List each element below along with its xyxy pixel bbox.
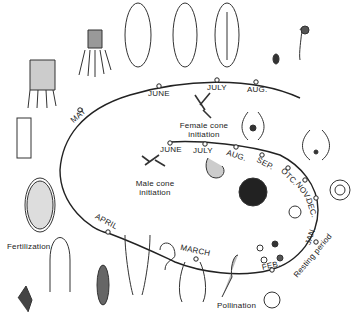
- month-label-june-inner: JUNE: [160, 146, 182, 154]
- month-label-aug-outer: AUG.: [247, 86, 267, 94]
- ovule-sketch-2: [173, 3, 197, 67]
- female-cone-line1: Female cone: [176, 122, 232, 130]
- female-cone-line2: initiation: [176, 131, 232, 139]
- month-label-july-outer: JULY: [207, 84, 227, 92]
- pollination-label: Pollination: [217, 302, 256, 310]
- cycle-drawing: [0, 0, 360, 321]
- month-label-june-outer: JUNE: [148, 90, 170, 98]
- ovule-sketch-1: [125, 3, 151, 67]
- female-cone-initiation-label: Female cone initiation: [176, 122, 232, 139]
- male-cone-line2: initiation: [130, 189, 180, 197]
- fertilization-label: Fertilization: [7, 243, 51, 251]
- male-cone-initiation-label: Male cone initiation: [130, 180, 180, 197]
- male-cone-line1: Male cone: [130, 180, 180, 188]
- life-cycle-diagram: MAY JUNE JULY AUG. APRIL MARCH JUNE JULY…: [0, 0, 360, 321]
- month-label-july-inner: JULY: [193, 147, 213, 155]
